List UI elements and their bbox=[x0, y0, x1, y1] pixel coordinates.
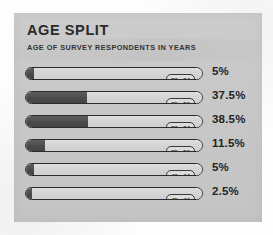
bar-row: 25 - 2937.5% bbox=[14, 87, 262, 111]
bar-range-label: 30 - 34 bbox=[166, 122, 195, 129]
page-title: AGE SPLIT bbox=[27, 22, 109, 38]
bar-track: 45 - 49 bbox=[25, 187, 203, 200]
bar-fill bbox=[26, 116, 88, 127]
bar-value-label: 5% bbox=[212, 161, 229, 173]
bar-track: 40 - 44 bbox=[25, 163, 203, 176]
bar-row: 30 - 3438.5% bbox=[14, 111, 262, 135]
bar-track: 25 - 29 bbox=[25, 91, 203, 104]
bar-track: 20 - 24 bbox=[25, 67, 203, 80]
bar-fill bbox=[26, 164, 34, 175]
bar-fill bbox=[26, 140, 45, 151]
bar-fill bbox=[26, 92, 87, 103]
chart-subtitle: AGE OF SURVEY RESPONDENTS IN YEARS bbox=[27, 43, 196, 52]
page-background: AGE SPLIT AGE OF SURVEY RESPONDENTS IN Y… bbox=[0, 0, 273, 235]
bar-range-label: 20 - 24 bbox=[166, 74, 195, 81]
bar-fill bbox=[26, 68, 34, 79]
bar-range-label: 45 - 49 bbox=[166, 194, 195, 201]
bar-row: 35 - 3911.5% bbox=[14, 135, 262, 159]
bar-value-label: 38.5% bbox=[212, 113, 246, 125]
bar-value-label: 37.5% bbox=[212, 89, 246, 101]
age-split-bar-chart: 20 - 245%25 - 2937.5%30 - 3438.5%35 - 39… bbox=[14, 63, 262, 207]
bar-range-label: 25 - 29 bbox=[166, 98, 195, 105]
bar-fill bbox=[26, 188, 32, 199]
bar-value-label: 11.5% bbox=[212, 137, 245, 149]
bar-track: 30 - 34 bbox=[25, 115, 203, 128]
bar-row: 40 - 445% bbox=[14, 159, 262, 183]
bar-value-label: 5% bbox=[212, 65, 229, 77]
age-split-infographic-panel: AGE SPLIT AGE OF SURVEY RESPONDENTS IN Y… bbox=[14, 13, 262, 222]
bar-range-label: 35 - 39 bbox=[166, 146, 195, 153]
bar-value-label: 2.5% bbox=[212, 185, 239, 197]
bar-track: 35 - 39 bbox=[25, 139, 203, 152]
bar-range-label: 40 - 44 bbox=[166, 170, 195, 177]
bar-row: 45 - 492.5% bbox=[14, 183, 262, 207]
bar-row: 20 - 245% bbox=[14, 63, 262, 87]
